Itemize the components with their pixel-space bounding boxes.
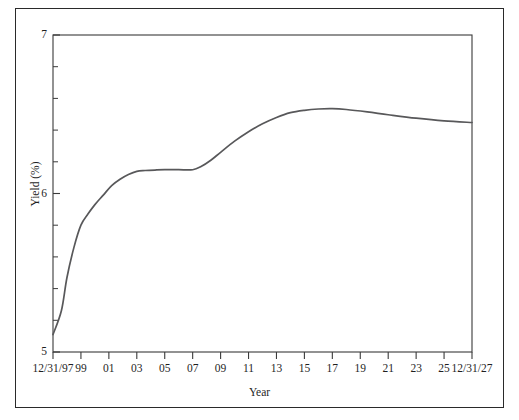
chart-figure: 567 12/31/979901030507091113151719212325… [0,0,519,420]
x-axis-title: Year [0,386,519,398]
y-tick-label: 5 [5,346,47,358]
y-tick-label: 7 [5,29,47,41]
figure-outer-frame [15,8,504,408]
y-axis-title: Yield (%) [29,144,41,224]
x-tick-label: 12/31/27 [440,363,504,375]
